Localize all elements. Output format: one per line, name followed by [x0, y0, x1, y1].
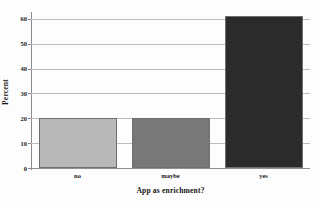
y-axis-tick-label: 60 — [7, 15, 27, 22]
y-axis-tick-label: 40 — [7, 65, 27, 72]
y-axis-tick-labels: 0102030405060 — [3, 0, 27, 206]
plot-area — [31, 14, 310, 168]
x-axis-tick-label: maybe — [124, 172, 217, 180]
bar — [225, 16, 303, 168]
y-axis-tick-label: 30 — [7, 90, 27, 97]
y-axis-tick-label: 0 — [7, 165, 27, 172]
bar-chart: Percent 0102030405060 nomaybeyes App as … — [0, 0, 321, 206]
x-axis-tick-label: yes — [217, 172, 310, 180]
bar — [39, 118, 117, 168]
x-axis-title: App as enrichment? — [31, 186, 310, 195]
y-axis-tick-label: 10 — [7, 140, 27, 147]
bar — [132, 118, 210, 168]
y-axis-tick-label: 20 — [7, 115, 27, 122]
y-axis-tick-label: 50 — [7, 40, 27, 47]
x-axis-line — [31, 168, 310, 169]
x-axis-tick-label: no — [31, 172, 124, 180]
